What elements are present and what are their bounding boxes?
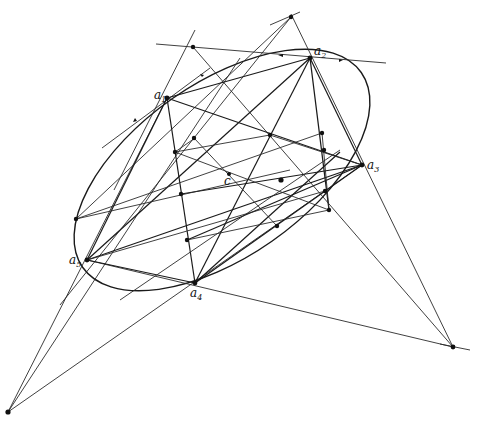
tangent-lines [102,30,386,190]
label-c: c [224,174,231,188]
point-tangent-intersection [191,45,195,49]
construction-lines [76,133,362,300]
point-a4 [193,281,198,286]
point-bottom-left [5,409,10,414]
label-a2: a2 [314,44,326,60]
point-a3 [360,163,365,168]
tangent-arrow-marks [133,54,343,122]
label-a5: a5 [69,253,81,269]
label-a4: a4 [190,286,202,302]
bottom-right-lines [87,47,470,350]
point-top [289,15,293,19]
point-a5 [85,258,90,263]
label-a3: a3 [367,158,379,174]
point-a2 [308,56,313,61]
bottom-left-lines [8,58,362,412]
geometry-diagram: a1 a2 a3 a4 a5 c [0,0,478,425]
point-bottom-right [451,345,456,350]
